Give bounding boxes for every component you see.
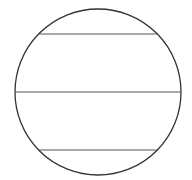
circle-diagram	[0, 0, 192, 180]
